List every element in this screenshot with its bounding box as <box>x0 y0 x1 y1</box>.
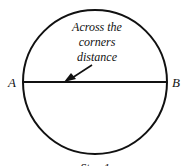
annotation-line-2: corners <box>79 35 116 49</box>
annotation-line-3: distance <box>77 50 118 64</box>
pointer-arrow-head-icon <box>64 73 76 82</box>
annotation-line-1: Across the <box>71 20 123 34</box>
point-label-b: B <box>172 75 180 90</box>
point-label-a: A <box>7 75 16 90</box>
step-caption: Step 1 <box>80 161 110 166</box>
pointer-arrow-shaft <box>72 65 92 78</box>
diagram-canvas: Across the corners distance A B Step 1 <box>0 0 188 166</box>
